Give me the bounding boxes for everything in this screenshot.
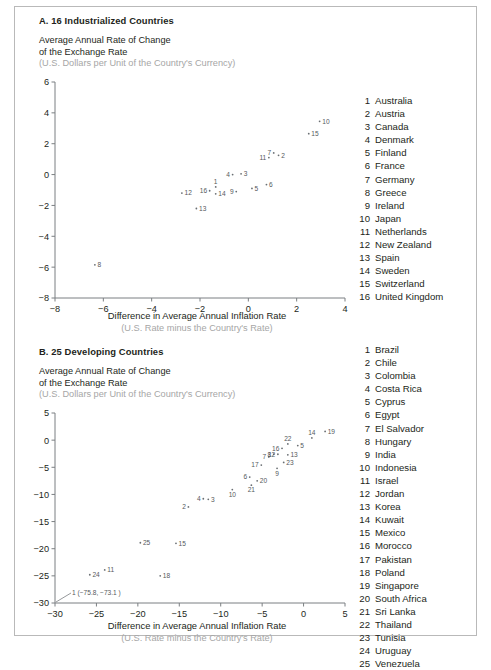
legend-item-number: 5 [355,146,370,159]
legend-item: 14Sweden [355,264,443,277]
legend-item-number: 5 [355,395,370,408]
legend-item-label: Morocco [375,539,412,552]
data-point-label: 14 [308,429,316,436]
legend-item-number: 12 [355,238,370,251]
legend-item-label: Egypt [375,408,400,421]
legend-item-label: Tunisia [375,631,406,644]
legend-item-label: Australia [375,94,412,107]
data-point: 17 [251,461,262,468]
legend-item: 1Australia [355,94,443,107]
legend-item-number: 25 [355,657,370,670]
data-point-label: 18 [163,572,171,579]
data-point: 10 [229,489,237,498]
legend-item-label: Hungary [375,435,411,448]
legend-item-label: Chile [375,356,397,369]
data-point-label: 19 [328,428,336,435]
legend-item-label: Uruguay [375,644,411,657]
legend-item-label: Sri Lanka [375,605,416,618]
legend-item: 20South Africa [355,592,427,605]
legend-item-label: Spain [375,251,400,264]
data-point: 9 [275,467,279,476]
legend-item-label: Switzerland [375,277,425,290]
off-scale-annotation: 1 (−75.8, −73.1 ) [72,589,121,597]
legend-item-label: New Zealand [375,238,432,251]
data-point: 14 [308,429,316,439]
legend-item: 6Egypt [355,408,427,421]
data-point: 3 [207,496,214,503]
legend-item-label: Canada [375,120,409,133]
legend-item: 8Hungary [355,435,427,448]
legend-item-label: India [375,448,396,461]
legend-item-number: 1 [355,343,370,356]
data-point-label: 15 [179,540,187,547]
data-point-label: 24 [92,571,100,578]
data-point: 19 [324,428,335,435]
data-point-label: 4 [197,495,201,502]
data-point: 6 [243,473,250,480]
data-point: 25 [139,539,150,546]
data-point-marker [287,454,289,456]
x-tick-label: −15 [171,609,187,619]
legend-item: 7El Salvador [355,422,427,435]
y-tick-label: −20 [33,544,49,554]
legend-item-number: 16 [355,539,370,552]
legend-item-label: Poland [375,566,405,579]
legend-item-label: Netherlands [375,225,427,238]
legend-item-number: 8 [355,186,370,199]
legend-item: 14Kuwait [355,513,427,526]
legend-item: 17Pakistan [355,553,427,566]
x-tick-label: −10 [213,609,229,619]
legend-item-label: Denmark [375,133,414,146]
legend-item-label: Israel [375,474,398,487]
data-point-label: 11 [107,566,114,573]
plot-b-svg: −30−25−20−15−10−505−30−25−20−15−10−5051 … [15,7,355,622]
legend-item-number: 9 [355,199,370,212]
legend-item-label: Mexico [375,526,405,539]
legend-item: 16Morocco [355,539,427,552]
legend-item: 10Indonesia [355,461,427,474]
data-point-marker [159,575,161,577]
legend-item-number: 14 [355,264,370,277]
legend-item-label: Singapore [375,579,419,592]
legend-item-number: 13 [355,500,370,513]
legend-item-number: 16 [355,290,370,303]
data-point: 2 [182,503,189,510]
panel-b-x-axis-label: Difference in Average Annual Inflation R… [47,620,347,631]
legend-item-number: 1 [355,94,370,107]
legend-item-label: Indonesia [375,461,417,474]
legend-item-label: Korea [375,500,401,513]
data-point-label: 5 [300,442,304,449]
x-tick-label: −25 [89,609,105,619]
data-point-label: 2 [182,503,186,510]
legend-item: 18Poland [355,566,427,579]
legend-item: 24Uruguay [355,644,427,657]
legend-item-label: Jordan [375,487,404,500]
legend-item: 9Ireland [355,199,443,212]
legend-item: 25Venezuela [355,657,427,670]
legend-item-number: 4 [355,382,370,395]
legend-item-number: 10 [355,212,370,225]
data-point: 12 [268,451,279,458]
data-point-label: 16 [272,445,280,452]
data-point: 16 [272,445,283,452]
data-point-marker [283,462,285,464]
legend-item-number: 13 [355,251,370,264]
data-point-label: 3 [211,496,215,503]
legend-panel-a: 1Australia2Austria3Canada4Denmark5Finlan… [355,94,443,304]
legend-item-number: 15 [355,277,370,290]
x-tick-label: −5 [257,609,267,619]
y-tick-label: −5 [39,463,49,473]
y-tick-label: −15 [33,517,49,527]
data-point: 13 [287,451,298,458]
legend-item-label: Brazil [375,343,399,356]
data-point-marker [281,447,283,449]
legend-item-label: South Africa [375,592,427,605]
data-point-marker [139,542,141,544]
data-point: 23 [283,459,294,466]
legend-item: 15Mexico [355,526,427,539]
legend-item-label: Venezuela [375,657,420,670]
legend-item-number: 12 [355,487,370,500]
legend-item-number: 11 [355,225,370,238]
legend-item-label: Austria [375,107,405,120]
legend-item-label: Cyprus [375,395,405,408]
